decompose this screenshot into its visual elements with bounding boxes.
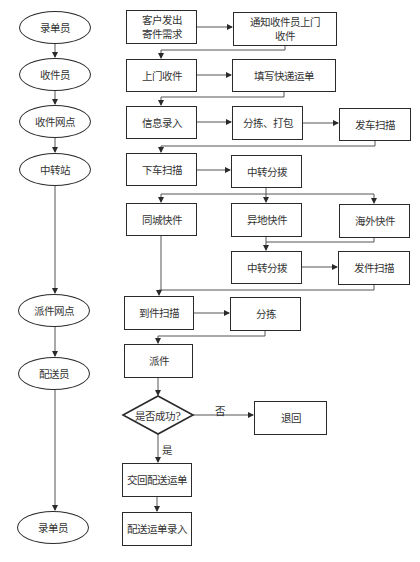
- step-label-line1: 客户发出: [142, 13, 182, 27]
- step-delivery: 派件: [124, 344, 193, 378]
- step-label: 退回: [281, 411, 301, 425]
- step-dispatch-scan: 发车扫描: [339, 108, 411, 141]
- step-label: 分拣、打包: [243, 116, 293, 130]
- step-unload-scan: 下车扫描: [126, 153, 197, 186]
- role-ellipse-transfer-station: 中转站: [19, 153, 91, 186]
- step-label: 发件扫描: [354, 261, 394, 275]
- step-label: 信息录入: [142, 116, 182, 130]
- step-label: 填写快递运单: [254, 69, 314, 83]
- step-other-city: 异地快件: [231, 203, 302, 237]
- step-customer-request: 客户发出 寄件需求: [126, 10, 197, 44]
- role-ellipse-recorder-final: 录单员: [17, 511, 89, 544]
- step-fill-waybill: 填写快递运单: [232, 59, 336, 92]
- step-label: 分拣: [256, 307, 276, 321]
- step-label: 中转分拨: [247, 165, 287, 179]
- step-label: 异地快件: [247, 213, 287, 227]
- step-label-line2: 收件: [275, 29, 295, 43]
- step-label: 中转分拨: [247, 261, 287, 275]
- step-info-entry: 信息录入: [126, 106, 197, 139]
- step-label: 派件: [149, 354, 169, 368]
- decision-text: 是否成功?: [135, 408, 181, 423]
- step-label-line2: 寄件需求: [142, 27, 182, 41]
- step-waybill-entry: 配送运单录入: [122, 512, 192, 546]
- role-ellipse-courier: 收件员: [19, 58, 91, 91]
- edge-label-no: 否: [215, 403, 225, 418]
- step-label: 上门收件: [142, 69, 182, 83]
- role-label: 收件网点: [35, 114, 75, 129]
- step-label: 到件扫描: [139, 306, 179, 320]
- role-label: 派件网点: [34, 303, 74, 318]
- step-arrival-scan: 到件扫描: [124, 296, 194, 330]
- logistics-flowchart: 录单员 收件员 收件网点 中转站 派件网点 配送员 录单员 客户发出 寄件需求 …: [0, 0, 420, 562]
- role-ellipse-deliveryman: 配送员: [18, 357, 90, 390]
- step-label: 下车扫描: [142, 163, 182, 177]
- step-hand-back-waybill: 交回配送运单: [122, 463, 192, 497]
- step-label: 交回配送运单: [127, 473, 187, 487]
- step-door-pickup: 上门收件: [126, 59, 197, 92]
- role-label: 录单员: [40, 20, 70, 35]
- role-ellipse-delivery-outlet: 派件网点: [18, 294, 90, 327]
- step-send-scan: 发件扫描: [338, 251, 410, 285]
- role-label: 配送员: [39, 366, 69, 381]
- role-label: 收件员: [40, 67, 70, 82]
- step-notify-courier: 通知收件员上门 收件: [233, 12, 337, 46]
- role-label: 中转站: [40, 162, 70, 177]
- step-label: 配送运单录入: [127, 522, 187, 536]
- decision-label: 是否成功?: [123, 405, 193, 425]
- step-overseas: 海外快件: [339, 204, 410, 238]
- step-sorting: 分拣: [230, 297, 301, 331]
- edge-label-yes: 是: [162, 442, 172, 457]
- role-ellipse-pickup-outlet: 收件网点: [19, 105, 91, 138]
- step-label-line1: 通知收件员上门: [250, 15, 320, 29]
- step-sort-pack: 分拣、打包: [232, 106, 303, 140]
- step-transfer-sort-2: 中转分拨: [231, 251, 302, 284]
- role-label: 录单员: [38, 520, 68, 535]
- step-return: 退回: [254, 401, 327, 435]
- role-ellipse-recorder: 录单员: [19, 11, 91, 44]
- step-label: 同城快件: [142, 213, 182, 227]
- step-same-city: 同城快件: [126, 203, 197, 236]
- step-label: 发车扫描: [355, 118, 395, 132]
- step-transfer-sort-1: 中转分拨: [231, 155, 302, 188]
- step-label: 海外快件: [355, 214, 395, 228]
